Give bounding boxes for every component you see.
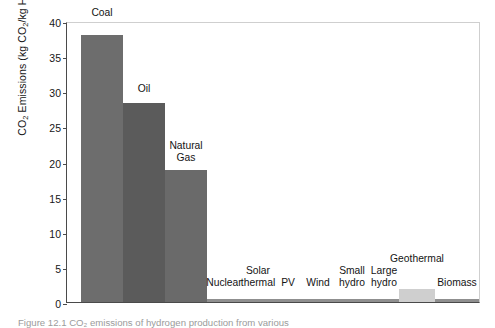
y-tick-label-25: 25: [31, 123, 61, 133]
y-tick-label-0: 0: [31, 299, 61, 309]
y-tick-label-35: 35: [31, 53, 61, 63]
figure-caption: Figure 12.1 CO₂ emissions of hydrogen pr…: [18, 316, 458, 328]
bar-small-hydro[interactable]: [335, 299, 369, 303]
y-tick-label-5: 5: [31, 264, 61, 274]
y-tick-label-30: 30: [31, 88, 61, 98]
bar-large-hydro[interactable]: [369, 299, 399, 302]
bar-geothermal[interactable]: [399, 289, 435, 302]
bar-label-coal: Coal: [57, 7, 147, 19]
y-axis-title: CO2 Emissions (kg CO2/kg H2): [16, 0, 29, 178]
y-axis-sub-co2: 2: [21, 115, 30, 119]
plot-area: 0510152025303540CoalOilNatural GasNuclea…: [66, 22, 480, 303]
y-tick-label-40: 40: [31, 18, 61, 28]
y-axis-sub-co2b: 2: [21, 23, 30, 27]
bar-label-biomass: Biomass: [412, 277, 495, 289]
bar-label-oil: Oil: [99, 83, 189, 95]
y-axis-title-text: CO: [16, 120, 28, 136]
y-axis-title-mid2: /kg H: [16, 0, 28, 23]
y-tick-label-20: 20: [31, 159, 61, 169]
bar-solar-thermal[interactable]: [241, 299, 275, 302]
y-tick-label-15: 15: [31, 194, 61, 204]
bar-oil[interactable]: [123, 103, 165, 302]
bar-wind[interactable]: [301, 299, 335, 302]
y-tick-label-10: 10: [31, 229, 61, 239]
bar-biomass[interactable]: [435, 299, 479, 302]
y-tick-mark-5: [63, 269, 68, 270]
y-tick-mark-20: [63, 164, 68, 165]
y-tick-mark-10: [63, 234, 68, 235]
y-tick-mark-15: [63, 199, 68, 200]
y-tick-mark-25: [63, 128, 68, 129]
y-tick-mark-35: [63, 58, 68, 59]
bar-nuclear[interactable]: [207, 299, 241, 303]
bar-coal[interactable]: [81, 35, 123, 302]
bar-pv[interactable]: [275, 299, 301, 302]
y-tick-mark-0: [63, 304, 68, 305]
y-tick-mark-30: [63, 93, 68, 94]
y-axis-title-mid: Emissions (kg CO: [16, 27, 28, 116]
bar-label-geothermal: Geothermal: [372, 253, 462, 265]
bar-label-natural-gas: Natural Gas: [141, 140, 231, 163]
y-tick-mark-40: [63, 23, 68, 24]
